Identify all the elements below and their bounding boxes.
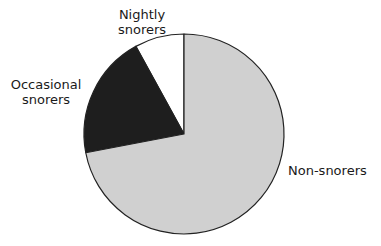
label-occasional-snorers: Occasional snorers [6, 77, 86, 107]
pie-chart [0, 0, 381, 246]
label-non-snorers: Non-snorers [288, 163, 368, 178]
label-nightly-line2: snorers [112, 22, 172, 37]
label-occasional-line1: Occasional [6, 77, 86, 92]
label-nightly-snorers: Nightly snorers [112, 7, 172, 37]
label-occasional-line2: snorers [6, 92, 86, 107]
label-nightly-line1: Nightly [112, 7, 172, 22]
